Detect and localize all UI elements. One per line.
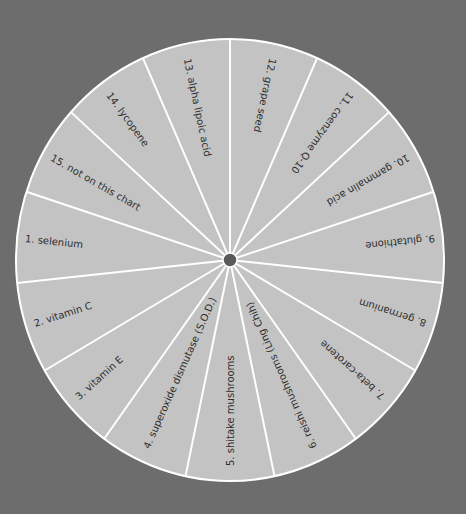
segment-label: 5. shitake mushrooms <box>225 355 236 466</box>
center-hub <box>223 253 237 267</box>
wheel-diagram: 1. selenium2. vitamin C3. vitamin E4. su… <box>0 0 466 514</box>
antioxidant-wheel: 1. selenium2. vitamin C3. vitamin E4. su… <box>0 0 466 514</box>
